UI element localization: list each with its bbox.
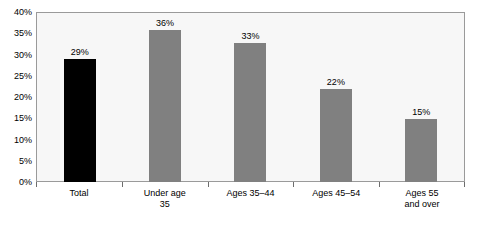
bar-value-label: 36% bbox=[156, 18, 174, 28]
bar bbox=[405, 119, 437, 182]
y-tick-label: 0% bbox=[0, 177, 32, 187]
x-label-line: Ages 45–54 bbox=[293, 188, 379, 199]
y-tick-label: 35% bbox=[0, 28, 32, 38]
x-axis-labels: TotalUnder age35Ages 35–44Ages 45–54Ages… bbox=[36, 188, 465, 224]
x-tick-mark bbox=[293, 182, 294, 187]
bar bbox=[320, 89, 352, 182]
y-tick-label: 40% bbox=[0, 7, 32, 17]
bar-group: 22% bbox=[293, 13, 378, 182]
y-tick-label: 20% bbox=[0, 92, 32, 102]
x-label-line: Ages 35–44 bbox=[208, 188, 294, 199]
y-axis: 0%5%10%15%20%25%30%35%40% bbox=[0, 12, 32, 182]
x-label-line: Under age bbox=[122, 188, 208, 199]
x-axis-category-label: Total bbox=[36, 188, 122, 199]
x-label-line: 35 bbox=[122, 199, 208, 210]
y-tick-label: 30% bbox=[0, 50, 32, 60]
bar bbox=[64, 59, 96, 182]
bar bbox=[234, 43, 266, 182]
bar bbox=[149, 30, 181, 182]
x-label-line: Total bbox=[36, 188, 122, 199]
x-tick-mark bbox=[208, 182, 209, 187]
x-label-line: Ages 55 bbox=[379, 188, 465, 199]
x-axis-ticks bbox=[36, 182, 465, 187]
bar-value-label: 15% bbox=[412, 107, 430, 117]
x-tick-mark bbox=[122, 182, 123, 187]
x-axis-category-label: Ages 45–54 bbox=[293, 188, 379, 199]
y-tick-label: 10% bbox=[0, 135, 32, 145]
chart-title bbox=[36, 0, 465, 4]
x-tick-mark bbox=[464, 182, 465, 187]
bar-value-label: 29% bbox=[71, 47, 89, 57]
bar-group: 29% bbox=[37, 13, 122, 182]
x-tick-mark bbox=[36, 182, 37, 187]
x-label-line: and over bbox=[379, 199, 465, 210]
bar-group: 15% bbox=[379, 13, 464, 182]
bar-chart: 0%5%10%15%20%25%30%35%40% 29%36%33%22%15… bbox=[0, 0, 477, 225]
bar-value-label: 33% bbox=[241, 31, 259, 41]
bars-layer: 29%36%33%22%15% bbox=[37, 13, 464, 182]
x-tick-mark bbox=[379, 182, 380, 187]
x-axis-category-label: Ages 55and over bbox=[379, 188, 465, 210]
x-axis-category-label: Ages 35–44 bbox=[208, 188, 294, 199]
bar-value-label: 22% bbox=[327, 77, 345, 87]
y-tick-label: 5% bbox=[0, 156, 32, 166]
y-tick-label: 15% bbox=[0, 113, 32, 123]
bar-group: 36% bbox=[122, 13, 207, 182]
x-axis-category-label: Under age35 bbox=[122, 188, 208, 210]
bar-group: 33% bbox=[208, 13, 293, 182]
y-tick-label: 25% bbox=[0, 71, 32, 81]
